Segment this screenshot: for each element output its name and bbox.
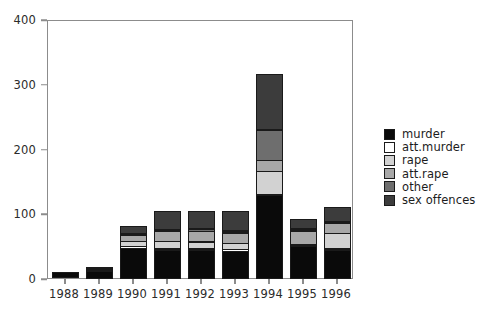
legend-item-att-rape[interactable]: att.rape [384, 168, 475, 180]
legend-item-sex-offences[interactable]: sex offences [384, 194, 475, 206]
legend-label: other [402, 180, 433, 194]
legend-swatch-icon-murder [384, 129, 395, 140]
y-tick-label-400: 400 [13, 13, 36, 27]
bar-segment-1994-rape [256, 171, 283, 196]
x-tick-mark-1991 [166, 279, 168, 284]
bar-1988 [52, 272, 79, 278]
bar-segment-1996-sex-offences [324, 207, 351, 222]
bar-segment-1991-sex-offences [154, 211, 181, 230]
bar-segment-1993-murder [222, 251, 249, 279]
x-tick-mark-1989 [98, 279, 100, 284]
bar-segment-1994-sex-offences [256, 74, 283, 130]
legend-swatch-icon-sex-offences [384, 195, 395, 206]
x-tick-mark-1988 [64, 279, 66, 284]
x-tick-mark-1993 [234, 279, 236, 284]
plot-area [47, 20, 353, 279]
legend-swatch-icon-att-rape [384, 168, 395, 179]
bar-segment-1993-sex-offences [222, 211, 249, 231]
y-tick-label-0: 0 [28, 272, 36, 286]
y-axis-labels: 0100200300400 [0, 0, 36, 315]
bar-segment-1991-murder [154, 250, 181, 279]
bar-1989 [86, 267, 113, 278]
legend-label: att.rape [402, 167, 449, 181]
legend-swatch-icon-rape [384, 155, 395, 166]
x-tick-label-1991: 1991 [151, 287, 181, 301]
legend-label: murder [402, 127, 445, 141]
y-tick-mark-100 [41, 214, 47, 216]
bar-1996 [324, 207, 351, 278]
x-tick-label-1995: 1995 [287, 287, 317, 301]
bar-1991 [154, 211, 181, 278]
x-tick-label-1990: 1990 [117, 287, 147, 301]
legend-swatch-icon-other [384, 181, 395, 192]
bar-1994 [256, 74, 283, 278]
legend-label: att.murder [402, 140, 465, 154]
bar-1995 [290, 219, 317, 278]
legend: murderatt.murderrapeatt.rapeothersex off… [384, 128, 475, 206]
legend-item-att-murder[interactable]: att.murder [384, 141, 475, 153]
legend-label: sex offences [402, 193, 475, 207]
bar-segment-1995-att-rape [290, 231, 317, 245]
bar-segment-1990-murder [120, 248, 147, 279]
bar-1993 [222, 211, 249, 278]
y-tick-mark-300 [41, 84, 47, 86]
x-tick-mark-1992 [200, 279, 202, 284]
legend-item-other[interactable]: other [384, 181, 475, 193]
bar-segment-1992-murder [188, 250, 215, 278]
legend-item-murder[interactable]: murder [384, 128, 475, 140]
legend-label: rape [402, 153, 429, 167]
x-tick-label-1993: 1993 [219, 287, 249, 301]
x-tick-label-1989: 1989 [83, 287, 113, 301]
bar-segment-1988-murder [52, 272, 79, 278]
x-tick-label-1994: 1994 [253, 287, 283, 301]
legend-item-rape[interactable]: rape [384, 154, 475, 166]
y-tick-label-200: 200 [13, 143, 36, 157]
bar-segment-1995-sex-offences [290, 219, 317, 229]
x-tick-mark-1990 [132, 279, 134, 284]
y-tick-mark-400 [41, 19, 47, 21]
bar-segment-1990-sex-offences [120, 226, 147, 234]
bar-segment-1996-rape [324, 233, 351, 249]
y-tick-label-100: 100 [13, 207, 36, 221]
bar-segment-1995-murder [290, 246, 317, 278]
y-tick-mark-200 [41, 149, 47, 151]
bar-segment-1996-murder [324, 250, 351, 279]
y-tick-mark-0 [41, 278, 47, 280]
x-tick-mark-1994 [268, 279, 270, 284]
bar-segment-1989-murder [86, 271, 113, 279]
bar-1992 [188, 211, 215, 278]
x-tick-mark-1996 [336, 279, 338, 284]
bar-segment-1992-sex-offences [188, 211, 215, 229]
x-tick-label-1992: 1992 [185, 287, 215, 301]
bar-segment-1994-murder [256, 195, 283, 279]
y-tick-label-300: 300 [13, 78, 36, 92]
chart-root: 0100200300400 19881989199019911992199319… [0, 0, 479, 315]
x-tick-label-1988: 1988 [49, 287, 79, 301]
x-tick-label-1996: 1996 [321, 287, 351, 301]
legend-swatch-icon-att-murder [384, 142, 395, 153]
bar-1990 [120, 226, 147, 278]
bar-segment-1994-other [256, 130, 283, 160]
x-tick-mark-1995 [302, 279, 304, 284]
